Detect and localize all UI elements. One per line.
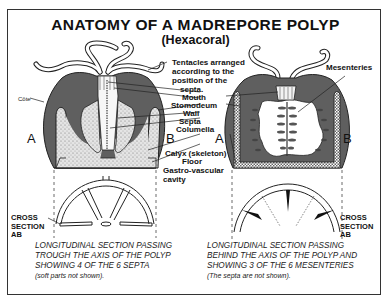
left-polyp <box>36 43 165 238</box>
marker-left-a: A <box>27 131 36 146</box>
left-cross-section <box>56 176 154 226</box>
marker-right-b: B <box>343 131 352 146</box>
label-gastro-line-1: Gastro-vascular <box>163 166 224 175</box>
caption-right-line-2: BEHIND THE AXIS OF THE POLYP AND <box>207 251 357 261</box>
marker-left-b: B <box>166 131 175 146</box>
label-tentacles-line-2: according to the <box>172 67 245 76</box>
caption-left: LONGITUDINAL SECTION PASSING TROUGH THE … <box>35 241 172 281</box>
caption-right-line-3: SHOWING 3 OF THE 6 MESENTERIES <box>207 261 357 271</box>
right-cross-section <box>234 184 340 232</box>
label-cote: Côte <box>18 96 31 102</box>
cross-left-line-3: AB <box>11 231 44 240</box>
caption-right-line-1: LONGITUDINAL SECTION PASSING <box>207 241 357 251</box>
label-tentacles-line-1: Tentacles arranged <box>172 58 245 67</box>
caption-left-line-3: SHOWING 4 OF THE 6 SEPTA <box>35 261 172 271</box>
cross-right-line-3: AB <box>340 231 373 240</box>
label-floor: Floor <box>182 157 202 166</box>
label-cross-section-left: CROSS SECTION AB <box>11 214 44 240</box>
label-cross-section-right: CROSS SECTION AB <box>340 214 373 240</box>
caption-right: LONGITUDINAL SECTION PASSING BEHIND THE … <box>207 241 357 281</box>
label-gastro-vascular: Gastro-vascular cavity <box>163 166 224 184</box>
caption-right-note: (The septa are not shown). <box>207 271 357 281</box>
caption-left-note: (soft parts not shown). <box>35 271 172 281</box>
label-tentacles-line-3: position of the <box>172 76 245 85</box>
caption-left-line-1: LONGITUDINAL SECTION PASSING <box>35 241 172 251</box>
label-gastro-line-2: cavity <box>163 175 224 184</box>
marker-right-a: A <box>215 131 224 146</box>
label-columella: Columella <box>176 125 214 134</box>
label-tentacles: Tentacles arranged according to the posi… <box>172 58 245 94</box>
caption-left-line-2: TROUGH THE AXIS OF THE POLYP <box>35 251 172 261</box>
label-mesenteries: Mesenteries <box>326 63 372 72</box>
